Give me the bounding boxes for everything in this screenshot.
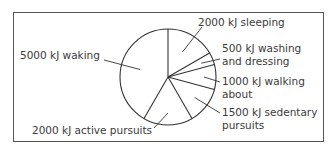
label-sedentary-line2: pursuits [222, 119, 264, 131]
label-active: 2000 kJ active pursuits [32, 124, 152, 136]
label-washing-line2: and dressing [222, 55, 289, 67]
label-waking: 5000 kJ waking [20, 49, 100, 61]
label-sedentary-line1: 1500 kJ sedentary [222, 106, 317, 118]
label-washing-line1: 500 kJ washing [222, 42, 301, 54]
label-sleeping: 2000 kJ sleeping [198, 16, 285, 28]
label-walking-line2: about [222, 88, 252, 100]
label-walking-line1: 1000 kJ walking [222, 75, 305, 87]
